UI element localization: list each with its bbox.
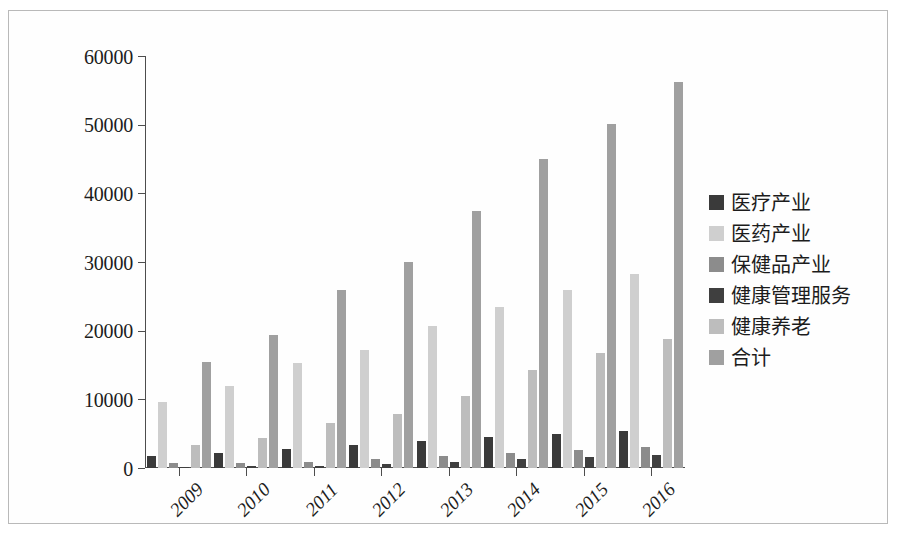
legend-item[interactable]: 健康管理服务 (709, 280, 881, 311)
bar (585, 457, 594, 468)
bar (304, 462, 313, 468)
bar (528, 370, 537, 468)
bar (428, 326, 437, 468)
bar (472, 211, 481, 469)
bar (596, 353, 605, 468)
bar-group (214, 56, 278, 468)
bar (539, 159, 548, 468)
bar (315, 466, 324, 468)
bar (461, 396, 470, 468)
legend-swatch-icon (709, 319, 724, 334)
bar (349, 445, 358, 468)
bar-group (417, 56, 481, 468)
y-axis-tick-label: 60000 (84, 45, 133, 68)
x-axis-tick-label: 2009 (165, 479, 207, 521)
x-axis-tick (381, 468, 382, 476)
x-axis-tick (179, 468, 180, 476)
chart-legend: 医疗产业医药产业保健品产业健康管理服务健康养老合计 (709, 187, 881, 373)
bar (663, 339, 672, 468)
legend-item-label: 合计 (731, 348, 771, 368)
legend-swatch-icon (709, 226, 724, 241)
legend-item-label: 保健品产业 (731, 255, 831, 275)
bar (169, 463, 178, 468)
y-axis-tick: 50000 (138, 125, 145, 126)
legend-item[interactable]: 合计 (709, 342, 881, 373)
x-axis-tick-label: 2011 (301, 479, 342, 520)
bar (202, 362, 211, 468)
bar (417, 441, 426, 468)
x-axis-tick (651, 468, 652, 476)
bar-group (349, 56, 413, 468)
bar (258, 438, 267, 468)
bar (552, 434, 561, 468)
bar (282, 449, 291, 468)
legend-item-label: 医疗产业 (731, 193, 811, 213)
bar (214, 453, 223, 468)
bar (563, 290, 572, 468)
bar (450, 462, 459, 468)
legend-item[interactable]: 健康养老 (709, 311, 881, 342)
bar (439, 456, 448, 468)
chart-figure: 0100002000030000400005000060000 20092010… (8, 10, 888, 524)
bar (293, 363, 302, 468)
y-axis-tick: 20000 (138, 331, 145, 332)
legend-swatch-icon (709, 257, 724, 272)
x-axis-tick (516, 468, 517, 476)
bar (517, 459, 526, 468)
bar-group (552, 56, 616, 468)
x-axis-tick-label: 2016 (638, 479, 680, 521)
bar (619, 431, 628, 468)
legend-swatch-icon (709, 288, 724, 303)
bar (269, 335, 278, 468)
bar (158, 402, 167, 468)
bar (641, 447, 650, 468)
bar (574, 450, 583, 468)
bar-group (484, 56, 548, 468)
bar (630, 274, 639, 468)
y-axis-tick-label: 40000 (84, 182, 133, 205)
x-axis-tick-label: 2012 (368, 479, 410, 521)
y-axis-tick: 10000 (138, 399, 145, 400)
bar (147, 456, 156, 468)
bar (674, 82, 683, 468)
y-axis-tick: 40000 (138, 193, 145, 194)
legend-item[interactable]: 医药产业 (709, 218, 881, 249)
x-axis-tick (449, 468, 450, 476)
legend-swatch-icon (709, 350, 724, 365)
x-axis-tick-label: 2014 (503, 479, 545, 521)
x-axis-tick (314, 468, 315, 476)
y-axis-tick-label: 10000 (84, 388, 133, 411)
x-axis-tick (246, 468, 247, 476)
legend-item[interactable]: 医疗产业 (709, 187, 881, 218)
bar (382, 464, 391, 468)
x-axis-tick-label: 2013 (435, 479, 477, 521)
legend-item-label: 医药产业 (731, 224, 811, 244)
x-axis-tick (584, 468, 585, 476)
bar (236, 463, 245, 468)
y-axis-tick-label: 0 (123, 457, 133, 480)
bar (371, 459, 380, 468)
bar (495, 307, 504, 468)
bar (326, 423, 335, 468)
bar (393, 414, 402, 468)
y-axis-tick: 0 (138, 468, 145, 469)
bar (180, 467, 189, 468)
legend-swatch-icon (709, 195, 724, 210)
bar (360, 350, 369, 468)
x-axis-tick-label: 2015 (570, 479, 612, 521)
bar-group (147, 56, 211, 468)
bar (247, 466, 256, 468)
bar (484, 437, 493, 468)
y-axis-tick-label: 20000 (84, 320, 133, 343)
y-axis-tick-label: 50000 (84, 114, 133, 137)
bar (652, 455, 661, 468)
legend-item[interactable]: 保健品产业 (709, 249, 881, 280)
bar-group (619, 56, 683, 468)
x-axis-tick-label: 2010 (233, 479, 275, 521)
bar (607, 124, 616, 468)
plot-area: 0100002000030000400005000060000 20092010… (145, 56, 685, 468)
bar (506, 453, 515, 468)
legend-item-label: 健康管理服务 (731, 286, 851, 306)
bar (404, 262, 413, 468)
bar (337, 290, 346, 468)
